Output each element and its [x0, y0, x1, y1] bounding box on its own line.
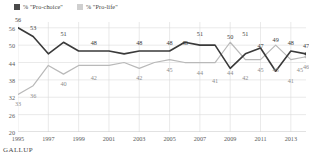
data-point-label: 48 — [288, 38, 294, 45]
data-point-label: 49 — [273, 36, 279, 43]
data-point-label: 48 — [166, 38, 172, 45]
series-lines — [18, 22, 306, 132]
data-point-label: 33 — [15, 100, 21, 107]
y-axis-tick-label: 38 — [9, 76, 15, 83]
series-endpoint-marker — [304, 55, 306, 58]
data-point-label: 41 — [288, 77, 294, 84]
data-point-label: 48 — [91, 38, 97, 45]
y-axis-tick-label: 56 — [9, 24, 15, 31]
data-point-label: 45 — [257, 65, 263, 72]
data-point-label: 48 — [136, 38, 142, 45]
data-point-label: 47 — [303, 41, 309, 48]
x-axis-tick-label: 2009 — [224, 135, 236, 142]
data-point-label: 42 — [136, 74, 142, 81]
y-axis-tick-label: 50 — [9, 42, 15, 49]
x-axis-tick-label: 2005 — [163, 135, 175, 142]
data-point-label: 50 — [227, 33, 233, 40]
y-axis-tick-label: 44 — [9, 59, 15, 66]
legend-item-pro-life: % "Pro-life" — [77, 3, 118, 10]
gallup-abortion-trend-chart: % "Pro-choice" % "Pro-life" 202632384450… — [0, 0, 309, 161]
data-point-label: 48 — [182, 38, 188, 45]
plot-area: 2026323844505619951997199920012003200520… — [18, 22, 306, 132]
x-axis-tick-label: 1997 — [42, 135, 54, 142]
data-point-label: 51 — [197, 30, 203, 37]
legend-label-pro-choice: % "Pro-choice" — [23, 3, 63, 10]
data-point-label: 45 — [166, 65, 172, 72]
data-point-label: 42 — [242, 74, 248, 81]
x-axis-tick-label: 2003 — [133, 135, 145, 142]
legend-item-pro-choice: % "Pro-choice" — [14, 3, 63, 10]
data-point-label: 53 — [30, 24, 36, 31]
x-axis-tick-label: 2013 — [285, 135, 297, 142]
data-point-label: 42 — [91, 74, 97, 81]
legend-label-pro-life: % "Pro-life" — [86, 3, 118, 10]
x-axis-tick-label: 1995 — [12, 135, 24, 142]
x-axis-tick-label: 2001 — [103, 135, 115, 142]
chart-legend: % "Pro-choice" % "Pro-life" — [14, 3, 118, 10]
legend-swatch-icon — [14, 4, 20, 10]
x-axis-tick-label: 1999 — [72, 135, 84, 142]
data-point-label: 41 — [212, 77, 218, 84]
x-axis-tick-label: 2011 — [254, 135, 266, 142]
legend-swatch-icon — [77, 4, 83, 10]
data-point-label: 47 — [257, 41, 263, 48]
data-point-label: 51 — [60, 30, 66, 37]
data-point-label: 56 — [15, 15, 21, 22]
data-point-label: 36 — [30, 91, 36, 98]
series-endpoint-marker — [304, 52, 306, 55]
data-point-label: 40 — [60, 80, 66, 87]
x-axis-tick-label: 2007 — [194, 135, 206, 142]
data-point-label: 44 — [197, 68, 203, 75]
data-point-label: 46 — [303, 62, 309, 69]
y-axis-tick-label: 26 — [9, 111, 15, 118]
data-point-label: 51 — [242, 30, 248, 37]
source-attribution: GALLUP — [3, 146, 33, 154]
data-point-label: 45 — [273, 65, 279, 72]
data-point-label: 44 — [227, 68, 233, 75]
